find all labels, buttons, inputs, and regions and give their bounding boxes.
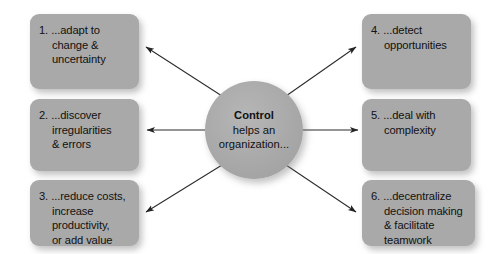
- arrow-to-box-1: [146, 47, 222, 96]
- diagram-box-3[interactable]: 3. ...reduce costs, increase productivit…: [30, 180, 139, 246]
- box-2-line-3: & errors: [39, 137, 131, 152]
- diagram-box-5[interactable]: 5. ...deal with complexity: [362, 99, 471, 171]
- diagram-box-6[interactable]: 6. ...decentralize decision making & fac…: [362, 180, 475, 246]
- box-5-line-2: complexity: [371, 123, 463, 138]
- diagram-canvas: 1. ...adapt to change & uncertainty 2. .…: [0, 0, 498, 254]
- box-4-line-1: 4. ...detect: [371, 23, 463, 38]
- box-4-line-2: opportunities: [371, 38, 463, 53]
- box-2-line-1: 2. ...discover: [39, 108, 131, 123]
- box-3-line-3: productivity,: [39, 218, 131, 233]
- box-2-line-2: irregularities: [39, 123, 131, 138]
- diagram-box-4[interactable]: 4. ...detect opportunities: [362, 14, 471, 89]
- center-line-2: helps an: [233, 123, 275, 137]
- diagram-box-2[interactable]: 2. ...discover irregularities & errors: [30, 99, 139, 171]
- box-6-line-1: 6. ...decentralize: [371, 189, 467, 204]
- center-line-3: organization...: [219, 137, 289, 151]
- center-title: Control: [234, 108, 274, 122]
- box-6-line-3: & facilitate: [371, 218, 467, 233]
- box-3-line-4: or add value: [39, 233, 131, 248]
- diagram-box-1[interactable]: 1. ...adapt to change & uncertainty: [30, 14, 139, 89]
- box-6-line-4: teamwork: [371, 233, 467, 248]
- arrow-to-box-3: [146, 165, 222, 212]
- box-6-line-2: decision making: [371, 204, 467, 219]
- box-3-line-2: increase: [39, 204, 131, 219]
- box-1-line-3: uncertainty: [39, 52, 131, 67]
- arrow-to-box-4: [286, 47, 356, 96]
- box-5-line-1: 5. ...deal with: [371, 108, 463, 123]
- box-3-line-1: 3. ...reduce costs,: [39, 189, 131, 204]
- arrow-to-box-6: [286, 165, 356, 212]
- center-circle-control[interactable]: Control helps an organization...: [205, 81, 303, 179]
- box-1-line-1: 1. ...adapt to: [39, 23, 131, 38]
- box-1-line-2: change &: [39, 38, 131, 53]
